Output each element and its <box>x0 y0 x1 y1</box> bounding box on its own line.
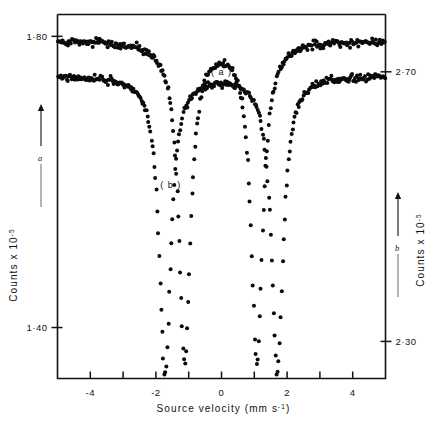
data-point <box>152 54 156 58</box>
data-point <box>193 145 197 149</box>
data-point <box>254 352 258 356</box>
data-point <box>253 338 257 342</box>
data-point <box>178 128 182 132</box>
data-point <box>264 156 268 160</box>
data-point <box>270 259 274 263</box>
data-point <box>251 284 255 288</box>
data-point <box>262 137 266 141</box>
data-point <box>273 87 277 91</box>
x-tick-label: 2 <box>284 387 290 398</box>
y-axis-title-right: Counts x 10-5 <box>415 213 427 286</box>
data-point <box>169 241 173 245</box>
data-point <box>238 91 242 95</box>
data-point <box>240 105 244 109</box>
data-point <box>374 37 378 41</box>
data-point <box>190 96 194 100</box>
data-point <box>170 118 174 122</box>
data-point <box>150 139 154 143</box>
data-point <box>268 208 272 212</box>
data-point <box>283 217 287 221</box>
data-point <box>91 45 95 49</box>
data-point <box>66 79 70 83</box>
data-point <box>270 98 274 102</box>
data-series-b <box>56 72 387 376</box>
data-point <box>247 182 251 186</box>
data-point <box>305 48 309 52</box>
data-point <box>142 104 146 108</box>
data-point <box>146 120 150 124</box>
data-point <box>168 101 172 105</box>
data-point <box>175 148 179 152</box>
data-point <box>291 127 295 131</box>
data-point <box>152 151 156 155</box>
data-point <box>291 121 295 125</box>
data-point <box>176 139 180 143</box>
data-point <box>77 43 81 47</box>
data-point <box>195 121 199 125</box>
data-point <box>259 127 263 131</box>
data-point <box>157 254 161 258</box>
data-point <box>252 98 256 102</box>
data-point <box>272 311 276 315</box>
data-point <box>69 42 73 46</box>
data-point <box>146 114 150 118</box>
data-point <box>288 150 292 154</box>
data-point <box>315 40 319 44</box>
x-tick-label: 0 <box>219 387 225 398</box>
data-point <box>306 91 310 95</box>
data-point <box>185 106 189 110</box>
data-point <box>199 95 203 99</box>
data-point <box>147 125 151 129</box>
data-point <box>163 370 167 374</box>
data-point <box>256 357 260 361</box>
data-point <box>159 63 163 67</box>
data-point <box>284 195 288 199</box>
data-point <box>274 353 278 357</box>
y-tick-label-right: 2·70 <box>396 66 417 77</box>
data-point <box>169 267 173 271</box>
x-tick-label: -4 <box>86 387 95 398</box>
data-point <box>151 144 155 148</box>
data-point <box>167 290 171 294</box>
data-point <box>153 176 157 180</box>
data-point <box>155 187 159 191</box>
right-axis-marker-arrowhead <box>395 192 401 199</box>
data-point <box>297 105 301 109</box>
data-point <box>265 179 269 183</box>
data-point <box>255 362 259 366</box>
data-point <box>262 208 266 212</box>
data-point <box>174 157 178 161</box>
data-point <box>171 129 175 133</box>
data-point <box>258 314 262 318</box>
data-point <box>137 44 141 48</box>
data-point <box>167 322 171 326</box>
y-tick-label-left: 1·80 <box>26 31 47 42</box>
data-point <box>177 132 181 136</box>
data-point <box>173 167 177 171</box>
data-point <box>231 66 235 70</box>
data-point <box>166 85 170 89</box>
data-point <box>242 114 246 118</box>
y-axis-title-left: Counts x 10-5 <box>8 228 20 301</box>
left-axis-marker-letter: a <box>38 153 42 163</box>
data-point <box>259 119 263 123</box>
data-point <box>266 139 270 143</box>
data-point <box>279 315 283 319</box>
data-point <box>177 239 181 243</box>
data-point <box>155 209 159 213</box>
data-point <box>249 223 253 227</box>
data-point <box>276 359 280 363</box>
data-point <box>172 183 176 187</box>
data-point <box>159 281 163 285</box>
data-point <box>287 157 291 161</box>
data-point <box>182 357 186 361</box>
data-point <box>190 192 194 196</box>
data-point <box>271 284 275 288</box>
data-point <box>246 158 250 162</box>
data-point <box>180 324 184 328</box>
data-point <box>290 132 294 136</box>
data-point <box>187 272 191 276</box>
data-point <box>164 81 168 85</box>
data-point <box>267 123 271 127</box>
left-axis-marker-arrowhead <box>38 104 44 111</box>
